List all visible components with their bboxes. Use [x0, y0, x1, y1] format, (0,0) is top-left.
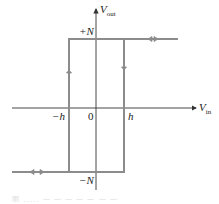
- origin-label: 0: [88, 111, 94, 122]
- high-level-label: +N: [79, 26, 94, 37]
- negative-threshold-label: −h: [52, 111, 65, 122]
- positive-threshold-label: h: [128, 111, 134, 122]
- x-axis-label: Vin: [199, 102, 211, 113]
- y-axis-label: Vout: [100, 4, 116, 15]
- hysteresis-diagram: [0, 0, 219, 204]
- direction-arrow-icons: [30, 37, 158, 175]
- figure-caption: 图 ..... 一 一 一 一 一 一 一: [12, 194, 212, 202]
- low-level-label: −N: [79, 175, 94, 186]
- hysteresis-loop: [12, 39, 178, 172]
